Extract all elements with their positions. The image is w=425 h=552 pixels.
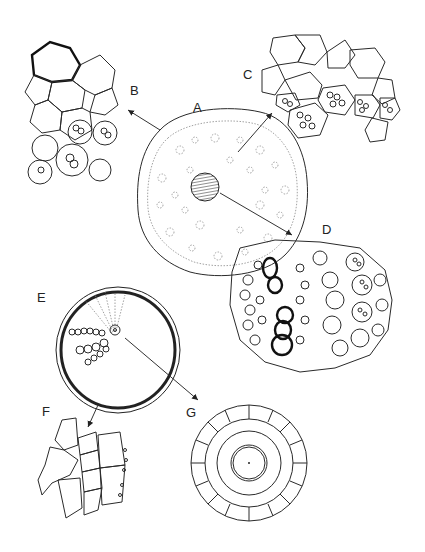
panel-f-cells xyxy=(38,418,128,518)
panel-a-section xyxy=(138,109,308,276)
panel-label-c: C xyxy=(243,68,252,81)
panel-label-e: E xyxy=(37,291,46,304)
panel-b-cells xyxy=(25,42,118,184)
panel-g-cells xyxy=(191,405,307,521)
panel-e-section xyxy=(56,287,180,413)
panel-label-f: F xyxy=(42,405,50,418)
panel-label-g: G xyxy=(186,406,196,419)
panel-label-b: B xyxy=(130,84,139,97)
arrow-e-to-g xyxy=(125,338,198,400)
arrow-a-to-c xyxy=(238,113,272,152)
panel-d-cells xyxy=(230,240,392,372)
arrow-a-to-d xyxy=(220,193,292,235)
panel-label-d: D xyxy=(322,223,331,236)
botanical-figure: B A C D E F G xyxy=(0,0,425,552)
figure-drawing xyxy=(0,0,425,552)
panel-label-a: A xyxy=(193,101,202,114)
panel-c-cells xyxy=(262,35,400,142)
arrow-a-to-b xyxy=(128,110,160,130)
